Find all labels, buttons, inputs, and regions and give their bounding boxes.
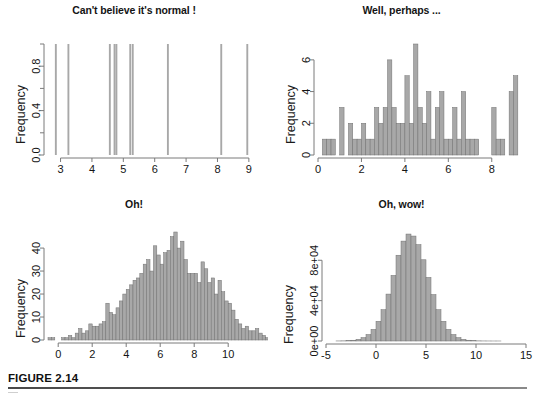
histogram-bar — [119, 301, 122, 340]
histogram-bar — [461, 339, 466, 341]
histogram-bar — [376, 321, 381, 341]
panel-bottom-left-plot: 0246810010203040 — [0, 198, 268, 370]
histogram-bar — [357, 139, 361, 155]
histogram-bar — [416, 245, 421, 341]
histogram-bar — [348, 123, 352, 155]
histogram-bar — [96, 326, 99, 340]
y-axis-tick-label: 0.8 — [30, 59, 42, 74]
histogram-bar — [421, 260, 426, 341]
histogram-bar — [370, 139, 374, 155]
histogram-bar — [133, 280, 136, 340]
x-axis-tick-label: 6 — [157, 348, 163, 360]
y-axis-tick-label: 4 — [300, 89, 312, 95]
histogram-bar — [474, 139, 478, 155]
y-axis-tick-label: 0.0 — [30, 147, 42, 162]
histogram-bar — [262, 335, 265, 340]
histogram-bar — [392, 107, 396, 155]
figure-caption: FIGURE 2.14 — [8, 372, 527, 393]
histogram-bar — [109, 312, 112, 340]
histogram-bar — [153, 246, 156, 340]
histogram-bar — [427, 92, 431, 155]
histogram-bar — [147, 260, 150, 340]
histogram-bar — [204, 269, 207, 340]
y-axis-tick-label: 4e+04 — [308, 285, 320, 316]
histogram-bar — [79, 329, 82, 340]
histogram-bar — [218, 280, 221, 340]
histogram-bar — [198, 283, 201, 340]
y-axis-tick-label: 2 — [300, 120, 312, 126]
histogram-bar — [157, 255, 160, 340]
histogram-bar — [225, 301, 228, 340]
histogram-bar — [242, 329, 245, 340]
figure-2-14: Can't believe it's normal ! Frequency 34… — [0, 0, 535, 397]
histogram-bar — [259, 333, 262, 340]
x-axis-tick-label: 6 — [152, 163, 158, 175]
histogram-bar — [211, 278, 214, 340]
histogram-bars — [322, 44, 517, 155]
histogram-bar — [401, 123, 405, 155]
panel-top-right: Well, perhaps ... Frequency 024680246 — [268, 4, 535, 194]
histogram-bar — [446, 329, 451, 341]
histogram-bar — [65, 338, 68, 340]
histogram-bar — [252, 331, 255, 340]
histogram-bar — [353, 139, 357, 155]
histogram-bars — [336, 234, 501, 341]
histogram-bar — [68, 335, 71, 340]
histogram-bar — [109, 44, 111, 155]
histogram-bar — [126, 289, 129, 340]
x-axis-tick-label: 2 — [358, 163, 364, 175]
histogram-bar — [405, 76, 409, 155]
histogram-bar — [174, 232, 177, 340]
x-axis-tick-label: 2 — [89, 348, 95, 360]
panel-top-right-plot: 024680246 — [268, 4, 535, 194]
y-axis-tick-label: 0.4 — [30, 103, 42, 118]
histogram-bar — [435, 107, 439, 155]
histogram-bar — [102, 322, 105, 340]
histogram-bar — [238, 324, 241, 340]
histogram-bar — [411, 236, 416, 341]
histogram-bar — [327, 139, 331, 155]
histogram-bar — [220, 44, 222, 155]
histogram-bar — [245, 326, 248, 340]
histogram-bar — [249, 331, 252, 340]
histogram-bar — [123, 294, 126, 340]
x-axis-tick-label: 3 — [57, 163, 63, 175]
caption-divider-secondary — [8, 392, 18, 393]
histogram-bar — [379, 123, 383, 155]
histogram-bar — [191, 273, 194, 340]
histogram-bar — [456, 338, 461, 341]
x-axis-tick-label: 4 — [123, 348, 129, 360]
histogram-bar — [340, 107, 344, 155]
histogram-bar — [75, 333, 78, 340]
histogram-bar — [451, 335, 456, 341]
histogram-bar — [232, 310, 235, 340]
histogram-bar — [89, 324, 92, 340]
histogram-bars — [48, 232, 268, 340]
figure-caption-label: FIGURE 2.14 — [8, 372, 527, 384]
histogram-bar — [221, 292, 224, 340]
x-axis-tick-label: 4 — [89, 163, 95, 175]
histogram-bar — [181, 241, 184, 340]
histogram-bar — [461, 92, 465, 155]
histogram-bar — [136, 278, 139, 340]
histogram-bar — [99, 324, 102, 340]
histogram-bar — [184, 260, 187, 340]
histogram-bar — [62, 338, 65, 340]
histogram-bar — [406, 234, 411, 341]
histogram-bar — [422, 123, 426, 155]
histogram-bar — [444, 139, 448, 155]
histogram-bar — [361, 338, 366, 341]
histogram-bar — [401, 241, 406, 341]
histogram-bar — [391, 275, 396, 341]
panel-bottom-right-plot: -50510150e+004e+048e+04 — [268, 198, 535, 370]
x-axis-tick-label: 5 — [120, 163, 126, 175]
histogram-bar — [466, 340, 471, 341]
histogram-bar — [466, 139, 470, 155]
y-axis-tick-label: 20 — [30, 288, 42, 300]
histogram-bar — [500, 139, 504, 155]
histogram-bar — [85, 331, 88, 340]
x-axis-tick-label: 0 — [55, 348, 61, 360]
x-axis-tick-label: 6 — [445, 163, 451, 175]
histogram-bar — [106, 303, 109, 340]
histogram-bar — [201, 262, 204, 340]
